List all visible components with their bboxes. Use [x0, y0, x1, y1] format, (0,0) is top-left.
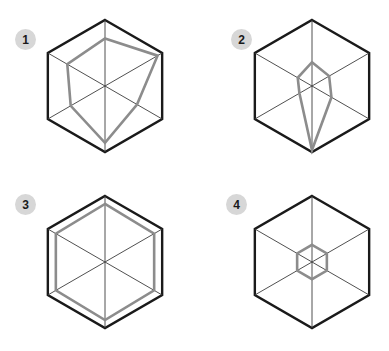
radar-plot-1 — [0, 0, 195, 176]
radar-axis-spoke-2 — [312, 229, 369, 262]
panel-badge-3-label: 3 — [22, 198, 29, 210]
radar-chart-figure: 1 2 3 4 — [0, 0, 389, 351]
panel-badge-4-label: 4 — [233, 198, 240, 210]
radar-axis-spoke-5 — [255, 262, 312, 295]
radar-axis-spoke-6 — [255, 229, 312, 262]
radar-plot-2 — [195, 0, 389, 176]
radar-panel-1[interactable] — [0, 0, 195, 176]
radar-axis-spoke-5 — [48, 86, 105, 119]
radar-panel-4[interactable] — [195, 176, 389, 351]
radar-axis-spoke-3 — [312, 86, 369, 119]
panel-badge-2: 2 — [231, 29, 252, 50]
radar-series-polygon-2 — [298, 62, 332, 150]
panel-badge-1: 1 — [15, 29, 36, 50]
radar-panel-2[interactable] — [195, 0, 389, 176]
radar-axis-spoke-3 — [312, 262, 369, 295]
panel-badge-3: 3 — [15, 194, 36, 215]
radar-plot-4 — [195, 176, 389, 351]
radar-axis-spoke-3 — [105, 86, 162, 119]
panel-badge-1-label: 1 — [22, 33, 29, 45]
radar-axis-spoke-6 — [255, 53, 312, 86]
radar-axis-spoke-2 — [105, 53, 162, 86]
panel-badge-2-label: 2 — [238, 33, 245, 45]
panel-badge-4: 4 — [226, 194, 247, 215]
